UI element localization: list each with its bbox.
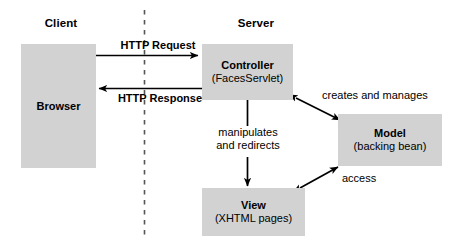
node-model-subtitle: (backing bean)	[354, 140, 427, 153]
edge-label-http-request: HTTP Request	[108, 39, 208, 52]
node-view-title: View	[241, 199, 266, 212]
node-view-subtitle: (XHTML pages)	[215, 212, 292, 225]
edge-label-http-response: HTTP Response	[106, 92, 214, 105]
zone-label-server: Server	[228, 17, 284, 29]
node-model-title: Model	[374, 127, 406, 140]
node-controller: Controller (FacesServlet)	[202, 44, 293, 100]
edge-label-manipulates-line2: and redirects	[203, 139, 293, 152]
zone-label-client: Client	[34, 17, 88, 29]
node-browser: Browser	[21, 44, 96, 168]
node-browser-title: Browser	[36, 100, 80, 113]
access-connector	[300, 167, 338, 188]
node-controller-title: Controller	[221, 59, 274, 72]
mvc-architecture-diagram: Client Server Browser Controller (FacesS…	[0, 0, 458, 251]
node-controller-subtitle: (FacesServlet)	[212, 72, 284, 85]
node-model: Model (backing bean)	[338, 114, 442, 166]
edge-label-access: access	[342, 172, 392, 185]
edge-label-manipulates-and-redirects: manipulates and redirects	[203, 126, 293, 152]
edge-label-creates-and-manages: creates and manages	[322, 89, 440, 102]
node-view: View (XHTML pages)	[202, 188, 305, 236]
edge-label-manipulates-line1: manipulates	[203, 126, 293, 139]
